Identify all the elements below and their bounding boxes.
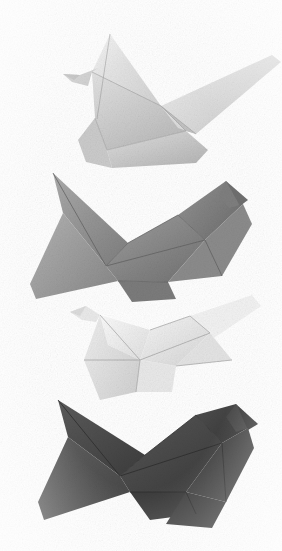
crane-4-dark-charcoal xyxy=(0,0,282,551)
crane-4-belly xyxy=(130,492,196,520)
crane-1-tail xyxy=(78,118,112,168)
crane-1-upper-wing xyxy=(92,34,161,119)
crane-4-creases xyxy=(58,400,226,514)
crane-2-head-beak xyxy=(226,181,248,206)
crane-3-body xyxy=(140,316,210,366)
origami-cranes-image: Four origami paper cranes 4 xyxy=(0,0,282,551)
crane-2-upper-wing xyxy=(53,173,128,266)
crane-4-neck xyxy=(226,404,248,432)
crane-2-neck xyxy=(219,181,243,208)
crane-1-creases xyxy=(92,34,196,150)
crane-4-head-beak xyxy=(236,404,258,430)
crane-1-body xyxy=(107,131,208,168)
crane-1-light-gray xyxy=(0,0,282,551)
crane-1-neck xyxy=(63,68,98,86)
crane-1-right-wing-under xyxy=(161,106,196,134)
crane-2-belly xyxy=(118,281,176,302)
crane-2-creases xyxy=(53,173,222,282)
crane-2-left-wing xyxy=(30,213,118,299)
crane-3-right-wing xyxy=(190,295,261,338)
crane-3-head-beak xyxy=(70,306,86,316)
crane-4-body xyxy=(120,415,222,492)
crane-2-right-wing xyxy=(178,181,243,240)
crane-1-back xyxy=(92,72,186,150)
crane-2-body xyxy=(106,215,205,282)
crane-3-upper-wing xyxy=(100,315,150,360)
crane-3-left-wing xyxy=(84,315,140,400)
crane-3-creases xyxy=(84,315,232,392)
crane-4-left-wing xyxy=(38,437,130,520)
crane-4-right-tail xyxy=(186,428,254,502)
edge-fade-vignette xyxy=(0,0,282,551)
crane-4-right-wing xyxy=(196,404,248,443)
crane-4-tail-tip xyxy=(166,492,226,528)
crane-1-right-wing xyxy=(161,55,281,134)
crane-3-pale-white xyxy=(0,0,282,551)
crane-2-right-tail xyxy=(168,204,252,282)
crane-3-right-tail xyxy=(176,333,232,366)
crane-2-medium-gray xyxy=(0,0,282,551)
crane-4-upper-wing xyxy=(58,400,145,476)
crane-3-neck xyxy=(70,306,100,322)
crane-1-head-beak xyxy=(63,74,80,80)
crane-3-belly xyxy=(136,360,176,392)
paper-grain-texture xyxy=(0,0,282,551)
